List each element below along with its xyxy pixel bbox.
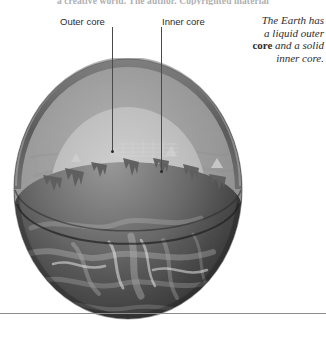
earth-cutaway-diagram [13, 58, 243, 320]
figure-caption: The Earth has a liquid outer core and a … [232, 14, 324, 64]
leader-dot-inner-core [160, 170, 163, 173]
caption-line-2: a liquid outer [264, 27, 324, 39]
leader-line-inner-core [161, 27, 162, 172]
caption-line-1: The Earth has [262, 14, 324, 26]
label-inner-core: Inner core [162, 16, 205, 27]
illustration-page: a creative world. The author. Copyrighte… [0, 0, 326, 342]
leader-dot-outer-core [111, 150, 114, 153]
running-head-text: a creative world. The author. Copyrighte… [0, 0, 326, 5]
leader-line-outer-core [112, 27, 113, 152]
caption-bold-core: core [252, 39, 272, 51]
page-divider-rule [0, 313, 326, 314]
caption-line-3-rest: and a solid [272, 39, 324, 51]
earth-cutaway-svg [13, 58, 243, 320]
caption-line-4: inner core. [276, 52, 324, 64]
label-outer-core: Outer core [60, 16, 105, 27]
